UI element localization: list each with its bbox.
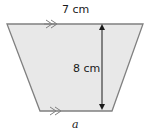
trapezoid-diagram [0, 0, 144, 135]
height-label: 8 cm [73, 62, 100, 75]
bottom-length-label: a [72, 118, 79, 131]
top-length-label: 7 cm [62, 3, 89, 16]
